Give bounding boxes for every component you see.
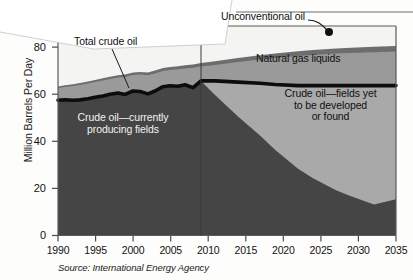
x-tick-label-2015: 2015: [226, 244, 266, 256]
annotation-currently-producing-fields: Crude oil—currently producing fields: [64, 112, 182, 135]
x-tick-label-2005: 2005: [151, 244, 191, 256]
annotation-fields-yet-line3: or found: [273, 111, 388, 123]
y-tick-label-60: 60: [22, 88, 46, 100]
x-tick-label-2035: 2035: [376, 244, 413, 256]
y-tick-label-0: 0: [22, 229, 46, 241]
x-tick-label-2020: 2020: [263, 244, 303, 256]
y-tick-label-40: 40: [22, 135, 46, 147]
source-note: Source: International Energy Agency: [58, 262, 209, 273]
annotation-currently-producing-fields-line1: Crude oil—currently: [64, 112, 182, 124]
y-tick-label-80: 80: [22, 41, 46, 53]
annotation-fields-yet-to-be-developed: Crude oil—fields yet to be developed or …: [273, 88, 388, 123]
x-tick-label-2030: 2030: [338, 244, 378, 256]
annotation-total-crude-oil: Total crude oil: [74, 36, 137, 48]
annotation-fields-yet-line1: Crude oil—fields yet: [273, 88, 388, 100]
annotation-currently-producing-fields-line2: producing fields: [64, 124, 182, 136]
y-axis-title: Million Barrels Per Day: [22, 35, 34, 185]
y-tick-label-20: 20: [22, 182, 46, 194]
x-tick-label-1990: 1990: [38, 244, 78, 256]
annotation-natural-gas-liquids: Natural gas liquids: [256, 53, 340, 65]
annotation-unconventional-oil: Unconventional oil: [221, 11, 305, 23]
x-tick-label-2000: 2000: [113, 244, 153, 256]
page-edge-occluder: [0, 0, 413, 280]
x-tick-label-1995: 1995: [76, 244, 116, 256]
x-tick-label-2025: 2025: [301, 244, 341, 256]
x-tick-label-2010: 2010: [188, 244, 228, 256]
chart-figure: Million Barrels Per Day 0 20 40 60 80 19…: [0, 0, 413, 280]
